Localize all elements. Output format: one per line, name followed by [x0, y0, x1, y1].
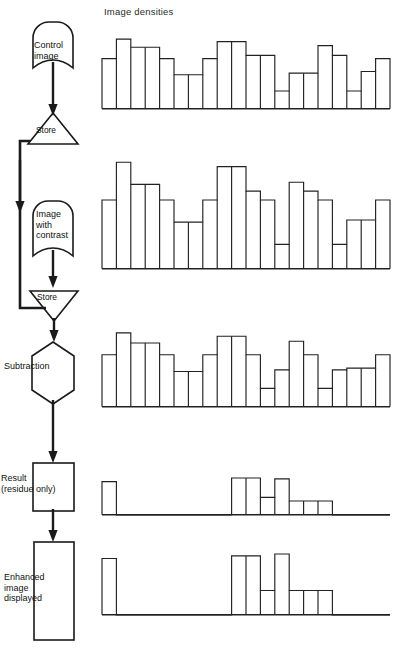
node-store-1: [28, 113, 78, 144]
histogram-svg: [102, 155, 390, 270]
histogram-svg: [102, 548, 390, 616]
histogram-subtraction: [102, 320, 390, 408]
arrowhead-contrast-to-store2: [48, 276, 57, 288]
diagram-canvas: Image densities: [0, 0, 393, 657]
arrowhead-bus: [15, 201, 24, 213]
arrowhead-subtraction-to-result: [48, 451, 57, 463]
arrowhead-result-to-enhanced: [48, 530, 57, 542]
histogram-svg: [102, 466, 390, 516]
histogram-bar-dividers: [246, 556, 318, 615]
node-subtraction: [32, 342, 74, 404]
flowchart-svg: [0, 0, 100, 657]
node-result: [33, 463, 74, 511]
node-enhanced: [34, 542, 74, 640]
process-flowchart: Control image Store Image with contrast …: [0, 0, 100, 657]
node-image-with-contrast: [33, 201, 73, 256]
arrowhead-store2-to-subtraction: [49, 330, 58, 342]
histogram-svg: [102, 320, 390, 408]
histogram-enhanced-displayed: [102, 548, 390, 616]
page-title: Image densities: [104, 6, 174, 17]
histogram-svg: [102, 25, 390, 110]
histogram-bar-dividers: [246, 478, 318, 515]
histogram-image-with-contrast: [102, 155, 390, 270]
node-store-2: [30, 291, 78, 321]
histogram-result-residue: [102, 466, 390, 516]
node-control-image: [33, 22, 73, 68]
histogram-control-image: [102, 25, 390, 110]
